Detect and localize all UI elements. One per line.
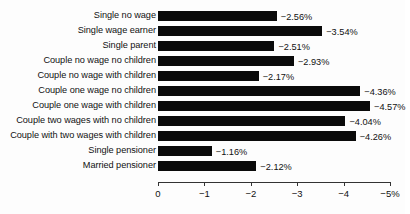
chart-row: Single no wage−2.56% (0, 9, 405, 24)
bar (158, 86, 360, 96)
bar (158, 41, 274, 51)
bar-track: −4.26% (158, 131, 356, 141)
bar-track: −4.04% (158, 116, 345, 126)
category-label: Single parent (0, 39, 156, 52)
x-axis-line: 0−1−2−3−4−5% (158, 182, 390, 183)
bar-track: −1.16% (158, 146, 212, 156)
category-label: Couple one wage no children (0, 84, 156, 97)
category-label: Single no wage (0, 9, 156, 22)
bar-track: −4.57% (158, 101, 370, 111)
x-axis-tick-label: −3 (277, 188, 317, 200)
category-label: Single wage earner (0, 24, 156, 37)
bar-value-label: −2.17% (263, 72, 294, 83)
bar-value-label: −4.57% (374, 102, 405, 113)
bar-value-label: −4.36% (364, 87, 395, 98)
x-axis-tick-label: −4 (324, 188, 364, 200)
x-axis-tick-label: −2 (231, 188, 271, 200)
bar (158, 101, 370, 111)
chart-row: Single pensioner−1.16% (0, 144, 405, 159)
chart-row: Couple one wage with children−4.57% (0, 99, 405, 114)
bar-value-label: −2.93% (298, 57, 329, 68)
bar-track: −2.12% (158, 161, 256, 171)
chart-row: Couple with two wages with children−4.26… (0, 129, 405, 144)
bar-track: −2.17% (158, 71, 259, 81)
x-axis-tick (344, 182, 345, 186)
bar-value-label: −4.26% (360, 132, 391, 143)
x-axis-tick-label: 0 (138, 188, 178, 200)
chart-row: Single parent−2.51% (0, 39, 405, 54)
bar (158, 146, 212, 156)
chart-row: Married pensioner−2.12% (0, 159, 405, 174)
category-label: Single pensioner (0, 144, 156, 157)
bar (158, 26, 322, 36)
chart-row: Couple two wages with no children−4.04% (0, 114, 405, 129)
chart-row: Couple no wage no children−2.93% (0, 54, 405, 69)
bar (158, 131, 356, 141)
bar-value-label: −4.04% (349, 117, 380, 128)
chart-row: Couple no wage with children−2.17% (0, 69, 405, 84)
bar-value-label: −3.54% (326, 27, 357, 38)
bar-value-label: −2.12% (260, 162, 291, 173)
x-axis-tick (297, 182, 298, 186)
category-label: Couple no wage no children (0, 54, 156, 67)
category-label: Married pensioner (0, 159, 156, 172)
x-axis-tick (251, 182, 252, 186)
category-label: Couple no wage with children (0, 69, 156, 82)
x-axis-tick (204, 182, 205, 186)
bar-value-label: −2.56% (281, 12, 312, 23)
x-axis-tick (390, 182, 391, 186)
category-label: Couple one wage with children (0, 99, 156, 112)
category-label: Couple two wages with no children (0, 114, 156, 127)
bar-value-label: −2.51% (278, 42, 309, 53)
chart-row: Single wage earner−3.54% (0, 24, 405, 39)
x-axis-tick-label: −5% (370, 188, 410, 200)
category-label: Couple with two wages with children (0, 129, 156, 142)
bar (158, 11, 277, 21)
bar-track: −2.93% (158, 56, 294, 66)
bar (158, 56, 294, 66)
x-axis-tick (158, 182, 159, 186)
bar-track: −2.51% (158, 41, 274, 51)
chart-row: Couple one wage no children−4.36% (0, 84, 405, 99)
x-axis-tick-label: −1 (184, 188, 224, 200)
chart-rows: Single no wage−2.56%Single wage earner−3… (0, 0, 405, 176)
bar (158, 161, 256, 171)
bar-track: −2.56% (158, 11, 277, 21)
bar (158, 71, 259, 81)
bar-track: −3.54% (158, 26, 322, 36)
bar-track: −4.36% (158, 86, 360, 96)
bar-value-label: −1.16% (216, 147, 247, 158)
bar (158, 116, 345, 126)
